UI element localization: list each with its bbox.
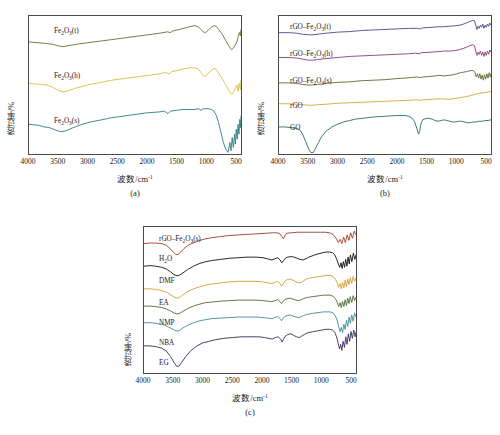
spectrum-curve bbox=[279, 91, 491, 105]
x-tick-label: 1500 bbox=[169, 157, 184, 166]
panel-b: 透过率/% 4000350030002500200015001000500 波数… bbox=[250, 0, 500, 215]
panel-b-ylabel: 透过率/% bbox=[256, 55, 267, 135]
x-tick-label: 3000 bbox=[330, 157, 345, 166]
panel-b-xlabel-sup: -1 bbox=[398, 174, 403, 180]
curve-label: rGO bbox=[290, 103, 303, 110]
x-tick-label: 2000 bbox=[254, 376, 269, 385]
panel-c-xticks: 4000350030002500200015001000500 bbox=[143, 376, 357, 388]
curve-label: EG bbox=[159, 360, 169, 367]
panel-a-ylabel: 透过率/% bbox=[6, 55, 17, 135]
x-tick-label: 1000 bbox=[449, 157, 464, 166]
x-tick-label: 3500 bbox=[165, 376, 180, 385]
x-tick-label: 4000 bbox=[271, 157, 286, 166]
panel-a-xticks: 4000350030002500200015001000500 bbox=[28, 157, 242, 169]
x-tick-label: 2500 bbox=[360, 157, 375, 166]
panel-c-caption: (c) bbox=[143, 407, 357, 417]
x-tick-label: 4000 bbox=[136, 376, 151, 385]
curve-label: Fe2O3(h) bbox=[54, 73, 80, 80]
panel-a-caption: (a) bbox=[28, 188, 242, 198]
panel-b-caption: (b) bbox=[278, 188, 492, 198]
spectrum-curve bbox=[144, 275, 356, 298]
x-tick-label: 1500 bbox=[284, 376, 299, 385]
ftir-figure: 透过率/% 4000350030002500200015001000500 波数… bbox=[0, 0, 500, 435]
curve-label: GO bbox=[290, 125, 300, 132]
panel-c-ylabel: 透过率/% bbox=[123, 286, 134, 366]
panel-c-xlabel-text: 波数/cm bbox=[232, 393, 263, 403]
panel-c-xlabel: 波数/cm-1 bbox=[143, 391, 357, 403]
x-tick-label: 3000 bbox=[195, 376, 210, 385]
x-tick-label: 3000 bbox=[80, 157, 95, 166]
panel-a-xlabel-text: 波数/cm bbox=[117, 174, 148, 184]
panel-a-xlabel: 波数/cm-1 bbox=[28, 172, 242, 184]
x-tick-label: 4000 bbox=[21, 157, 36, 166]
x-tick-label: 500 bbox=[230, 157, 241, 166]
panel-b-xlabel-text: 波数/cm bbox=[367, 174, 398, 184]
curve-label: NMP bbox=[159, 320, 175, 327]
curve-label: H2O bbox=[159, 256, 172, 263]
curve-label: rGO–Fe2O3(h) bbox=[290, 51, 333, 58]
x-tick-label: 500 bbox=[345, 376, 356, 385]
curve-label: Fe2O3(s) bbox=[54, 118, 79, 125]
panel-b-xlabel: 波数/cm-1 bbox=[278, 172, 492, 184]
panel-a: 透过率/% 4000350030002500200015001000500 波数… bbox=[0, 0, 250, 215]
panel-a-plot bbox=[28, 15, 242, 155]
spectrum-curve bbox=[144, 252, 356, 276]
x-tick-label: 500 bbox=[480, 157, 491, 166]
x-tick-label: 2000 bbox=[139, 157, 154, 166]
x-tick-label: 3500 bbox=[50, 157, 65, 166]
spectrum-curve bbox=[29, 109, 241, 153]
x-tick-label: 1500 bbox=[419, 157, 434, 166]
x-tick-label: 2500 bbox=[110, 157, 125, 166]
spectrum-curve bbox=[144, 329, 356, 366]
curve-label: DMF bbox=[159, 278, 175, 285]
panel-b-xticks: 4000350030002500200015001000500 bbox=[278, 157, 492, 169]
x-tick-label: 2000 bbox=[389, 157, 404, 166]
curve-label: rGO–Fe2O3(s) bbox=[159, 236, 201, 243]
curve-label: rGO–Fe2O3(s) bbox=[290, 78, 332, 85]
curve-label: rGO–Fe2O3(t) bbox=[290, 24, 331, 31]
curve-label: Fe2O3(t) bbox=[54, 28, 79, 35]
spectra-canvas bbox=[144, 227, 356, 373]
spectrum-curve bbox=[279, 116, 491, 153]
x-tick-label: 3500 bbox=[300, 157, 315, 166]
panel-a-xlabel-sup: -1 bbox=[148, 174, 153, 180]
panel-c-plot bbox=[143, 226, 357, 374]
spectra-canvas bbox=[29, 16, 241, 154]
panel-c-xlabel-sup: -1 bbox=[263, 393, 268, 399]
curve-label: NBA bbox=[159, 340, 174, 347]
x-tick-label: 1000 bbox=[314, 376, 329, 385]
x-tick-label: 2500 bbox=[225, 376, 240, 385]
x-tick-label: 1000 bbox=[199, 157, 214, 166]
panel-c: 透过率/% 4000350030002500200015001000500 波数… bbox=[115, 218, 385, 435]
curve-label: EA bbox=[159, 300, 169, 307]
